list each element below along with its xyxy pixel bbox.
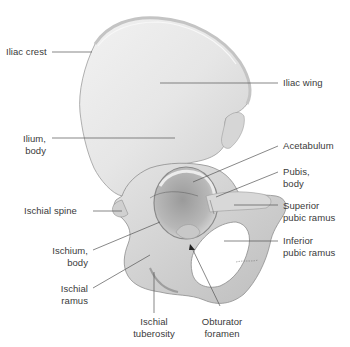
label-pubis-body: Pubis, body [283,166,310,190]
label-inferior-pubic-ramus: Inferior pubic ramus [283,235,335,259]
label-ischial-ramus: Ischial ramus [44,283,88,307]
label-iliac-crest: Iliac crest [6,46,47,58]
label-ischial-tuberosity: Ischial tuberosity [126,316,182,340]
label-ilium-body: Ilium, body [12,133,46,157]
bone-body [80,18,286,304]
hip-bone-diagram: Iliac crest Iliac wing Ilium, body Aceta… [0,0,350,347]
label-ischium-body: Ischium, body [40,245,88,269]
label-superior-pubic-ramus: Superior pubic ramus [283,200,335,224]
label-obturator-foramen: Obturator foramen [194,316,250,340]
label-ischial-spine: Ischial spine [24,205,77,217]
label-acetabulum: Acetabulum [283,140,334,152]
label-iliac-wing: Iliac wing [283,77,323,89]
